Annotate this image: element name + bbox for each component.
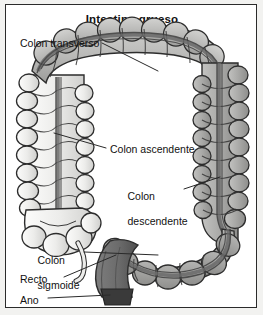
anus — [101, 289, 133, 305]
label-colon-descendente-line2: descendente — [128, 215, 188, 227]
label-ano: Ano — [20, 294, 39, 307]
label-recto: Recto — [20, 273, 47, 286]
figure-frame: Intestino grueso — [5, 4, 257, 308]
figure-page: Intestino grueso — [0, 0, 263, 315]
label-colon-sigmoide-line1: Colon — [38, 254, 65, 266]
label-colon-descendente-line1: Colon — [128, 190, 155, 202]
label-colon-transverso: Colon transverso — [20, 37, 99, 50]
transverse-colon — [30, 17, 229, 83]
label-colon-ascendente: Colon ascendente — [110, 143, 195, 156]
label-colon-descendente: Colon descendente — [110, 177, 188, 240]
descending-colon — [193, 63, 249, 243]
